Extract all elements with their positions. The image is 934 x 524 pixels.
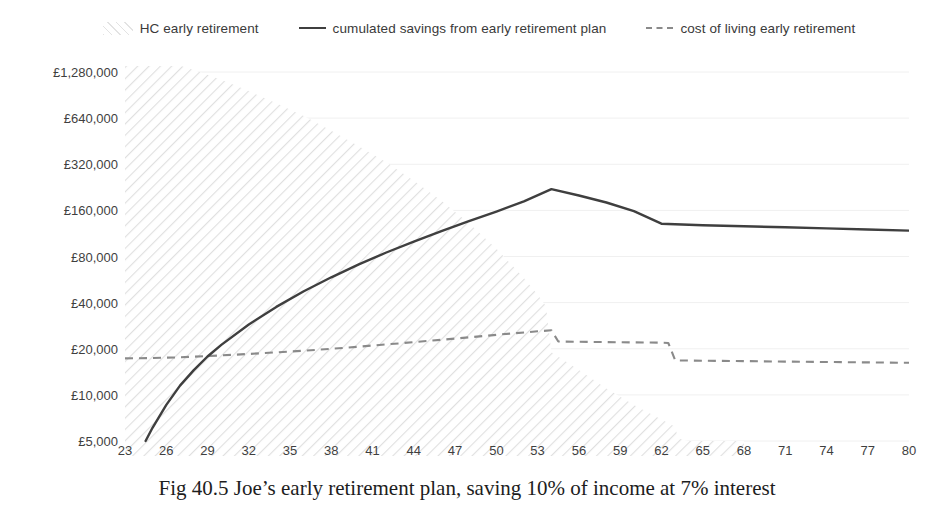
x-axis-tick-label: 41 bbox=[365, 443, 379, 458]
y-axis-tick-label: £40,000 bbox=[71, 295, 118, 310]
x-axis-tick-labels: 2326293235384144475053565962656871747780 bbox=[0, 441, 934, 469]
y-axis-tick-label: £80,000 bbox=[71, 249, 118, 264]
legend-item-label: cumulated savings from early retirement … bbox=[333, 21, 607, 36]
chart-container: £1,280,000£640,000£320,000£160,000£80,00… bbox=[0, 56, 934, 466]
y-axis-tick-labels: £1,280,000£640,000£320,000£160,000£80,00… bbox=[0, 56, 118, 466]
x-axis-tick-label: 62 bbox=[654, 443, 668, 458]
solid-line-swatch-icon bbox=[299, 27, 326, 29]
legend-item-hc-early-retirement[interactable]: HC early retirement bbox=[103, 21, 259, 36]
x-axis-tick-label: 50 bbox=[489, 443, 503, 458]
x-axis-tick-label: 53 bbox=[530, 443, 544, 458]
y-axis-tick-label: £1,280,000 bbox=[53, 65, 118, 80]
figure-caption: Fig 40.5 Joe’s early retirement plan, sa… bbox=[0, 476, 934, 501]
x-axis-tick-label: 47 bbox=[448, 443, 462, 458]
legend-item-label: HC early retirement bbox=[140, 21, 259, 36]
x-axis-tick-label: 35 bbox=[283, 443, 297, 458]
series-area-hc-early-retirement bbox=[125, 56, 744, 466]
x-axis-tick-label: 80 bbox=[902, 443, 916, 458]
y-axis-tick-label: £320,000 bbox=[64, 157, 118, 172]
x-axis-tick-label: 23 bbox=[118, 443, 132, 458]
chart-legend: HC early retirement cumulated savings fr… bbox=[0, 0, 934, 56]
x-axis-tick-label: 29 bbox=[200, 443, 214, 458]
y-axis-tick-label: £160,000 bbox=[64, 203, 118, 218]
legend-item-cost-of-living[interactable]: cost of living early retirement bbox=[646, 21, 855, 36]
x-axis-tick-label: 26 bbox=[159, 443, 173, 458]
x-axis-tick-label: 44 bbox=[407, 443, 421, 458]
x-axis-tick-label: 74 bbox=[819, 443, 833, 458]
chart-plot-area[interactable] bbox=[0, 56, 934, 466]
dashed-line-swatch-icon bbox=[646, 27, 673, 29]
y-axis-tick-label: £20,000 bbox=[71, 341, 118, 356]
x-axis-tick-label: 77 bbox=[860, 443, 874, 458]
x-axis-tick-label: 56 bbox=[572, 443, 586, 458]
x-axis-tick-label: 59 bbox=[613, 443, 627, 458]
y-axis-tick-label: £10,000 bbox=[71, 387, 118, 402]
hatch-area-swatch-icon bbox=[103, 22, 133, 35]
x-axis-tick-label: 32 bbox=[242, 443, 256, 458]
x-axis-tick-label: 68 bbox=[737, 443, 751, 458]
legend-item-label: cost of living early retirement bbox=[680, 21, 855, 36]
legend-item-cumulated-savings[interactable]: cumulated savings from early retirement … bbox=[299, 21, 607, 36]
y-axis-tick-label: £640,000 bbox=[64, 111, 118, 126]
x-axis-tick-label: 65 bbox=[695, 443, 709, 458]
x-axis-tick-label: 71 bbox=[778, 443, 792, 458]
x-axis-tick-label: 38 bbox=[324, 443, 338, 458]
